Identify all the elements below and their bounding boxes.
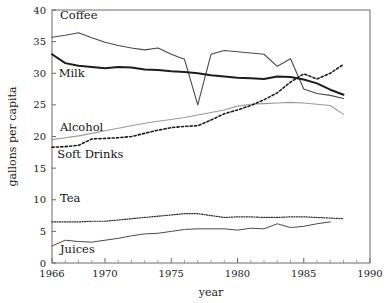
series-label-juices: Juices <box>59 242 95 256</box>
series-line-tea <box>52 214 344 222</box>
x-axis-title: year <box>198 286 224 299</box>
series-line-soft-drinks <box>52 64 344 147</box>
x-tick-label: 1980 <box>225 268 250 279</box>
series-label-soft-drinks: Soft Drinks <box>57 147 123 161</box>
series-line-milk <box>52 54 344 94</box>
series-label-tea: Tea <box>60 191 81 205</box>
x-tick-label: 1970 <box>92 268 117 279</box>
x-tick-label: 1966 <box>39 268 64 279</box>
y-tick-label: 10 <box>33 194 46 205</box>
y-tick-label: 25 <box>33 99 46 110</box>
line-chart: 0510152025303540196619701975198019851990… <box>0 0 386 303</box>
plot-frame <box>52 10 370 263</box>
x-tick-label: 1985 <box>291 268 316 279</box>
x-tick-label: 1975 <box>159 268 184 279</box>
y-tick-label: 35 <box>33 36 46 47</box>
series-line-coffee <box>52 33 344 105</box>
y-axis-title: gallons per capita <box>6 86 19 186</box>
y-tick-label: 40 <box>33 5 46 16</box>
y-tick-label: 0 <box>40 258 46 269</box>
series-label-milk: Milk <box>59 66 86 80</box>
y-tick-label: 20 <box>33 131 46 142</box>
chart-container: 0510152025303540196619701975198019851990… <box>0 0 386 303</box>
y-tick-label: 30 <box>33 68 46 79</box>
series-label-alcohol: Alcohol <box>59 120 104 134</box>
x-tick-label: 1990 <box>357 268 382 279</box>
series-label-coffee: Coffee <box>60 8 98 22</box>
y-tick-label: 15 <box>33 163 46 174</box>
y-tick-label: 5 <box>40 226 46 237</box>
